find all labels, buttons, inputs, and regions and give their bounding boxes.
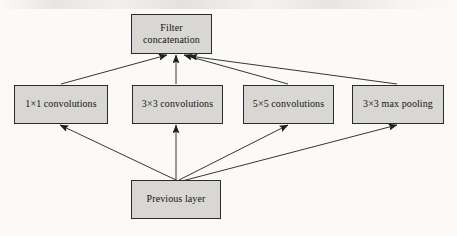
edge-conv5x5-to-concat [184, 55, 288, 84]
edge-maxpool-to-concat [189, 56, 397, 84]
node-label-conv-1x1: 1×1 convolutions [22, 98, 99, 110]
diagram-canvas: Filterconcatenation 1×1 convolutions 3×3… [0, 0, 457, 236]
edge-conv1x1-to-concat [61, 55, 167, 84]
node-label-conv-3x3: 3×3 convolutions [139, 98, 216, 110]
node-maxpool-3x3[interactable]: 3×3 max pooling [352, 85, 444, 124]
node-label-filter-concatenation: Filterconcatenation [140, 22, 203, 46]
edge-prev-to-maxpool [182, 125, 397, 181]
node-conv-1x1[interactable]: 1×1 convolutions [14, 85, 108, 124]
edge-prev-to-conv1x1 [60, 125, 176, 180]
node-label-conv-5x5: 5×5 convolutions [250, 98, 327, 110]
node-label-maxpool-3x3: 3×3 max pooling [360, 98, 436, 110]
node-conv-5x5[interactable]: 5×5 convolutions [243, 85, 334, 124]
edge-prev-to-conv5x5 [179, 125, 288, 180]
node-conv-3x3[interactable]: 3×3 convolutions [132, 85, 223, 124]
node-label-previous-layer: Previous layer [144, 193, 209, 205]
node-filter-concatenation[interactable]: Filterconcatenation [131, 14, 212, 54]
node-previous-layer[interactable]: Previous layer [131, 180, 221, 219]
